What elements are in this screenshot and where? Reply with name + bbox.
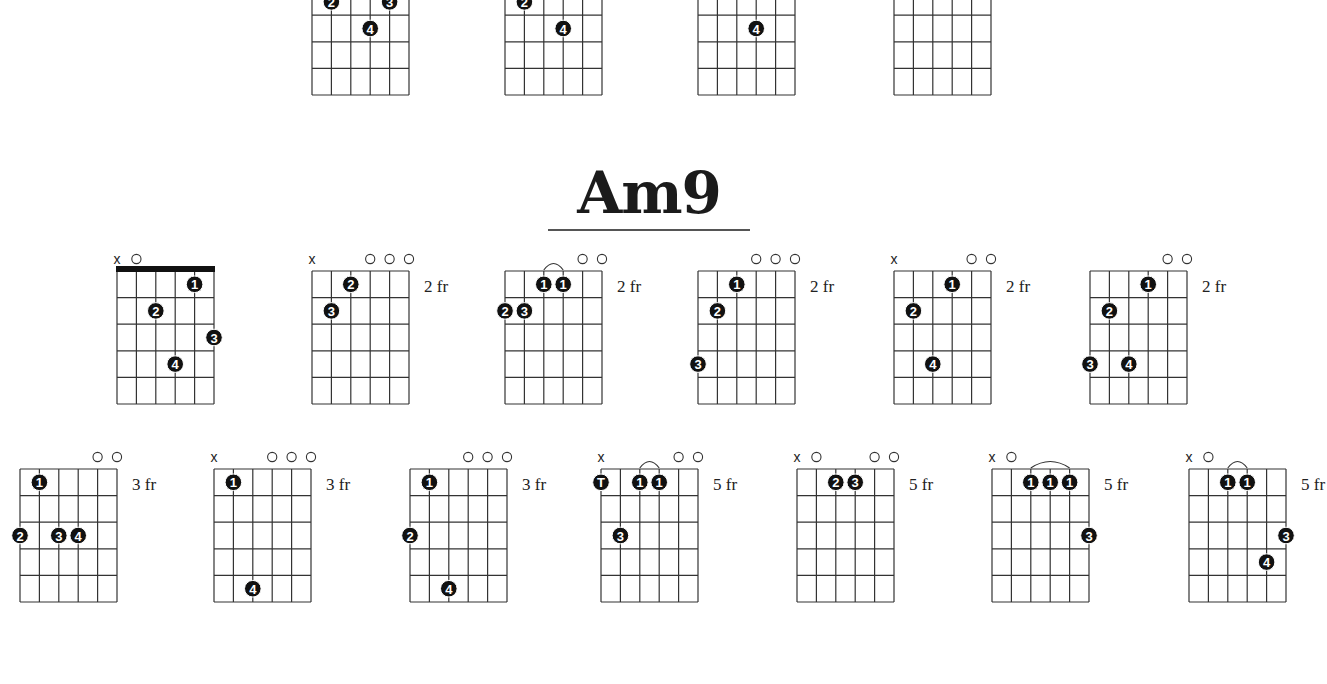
chord-diagram-c7: 1234 <box>0 439 137 612</box>
open-string-icon <box>112 452 121 461</box>
muted-string-icon: x <box>114 251 121 267</box>
svg-text:3: 3 <box>328 304 335 319</box>
finger-dot: 2 <box>343 276 360 293</box>
finger-dot: 3 <box>206 329 223 346</box>
chord-diagram-c8: x14 <box>194 439 331 612</box>
svg-text:1: 1 <box>1047 475 1054 490</box>
chord-diagram-c13: x1134 <box>1169 439 1306 612</box>
svg-text:3: 3 <box>521 304 528 319</box>
svg-text:4: 4 <box>1263 555 1271 570</box>
svg-text:4: 4 <box>367 22 375 37</box>
svg-text:1: 1 <box>36 475 43 490</box>
finger-dot: 2 <box>497 303 514 320</box>
muted-string-icon: x <box>891 251 898 267</box>
finger-dot: 4 <box>555 20 572 37</box>
open-string-icon <box>771 254 780 263</box>
chord-diagram-partial: 24 <box>485 0 622 105</box>
nut-bar <box>116 266 215 272</box>
svg-text:3: 3 <box>1282 529 1289 544</box>
chord-diagram-c4: 123 <box>678 241 815 414</box>
finger-dot: 1 <box>1061 474 1078 491</box>
finger-dot: 4 <box>167 356 184 373</box>
chord-diagram-c3: 1123 <box>485 241 622 414</box>
finger-dot: 4 <box>441 580 458 597</box>
svg-text:4: 4 <box>75 529 83 544</box>
svg-text:2: 2 <box>501 304 508 319</box>
svg-text:4: 4 <box>929 357 937 372</box>
barre-arc <box>640 462 659 469</box>
barre-arc <box>544 264 563 271</box>
svg-text:3: 3 <box>1086 357 1093 372</box>
fret-position-label: 3 fr <box>326 475 350 495</box>
open-string-icon <box>404 254 413 263</box>
finger-dot: 1 <box>1042 474 1059 491</box>
svg-text:1: 1 <box>191 277 198 292</box>
muted-string-icon: x <box>794 449 801 465</box>
svg-text:4: 4 <box>172 357 180 372</box>
fret-position-label: 2 fr <box>424 277 448 297</box>
finger-dot: 4 <box>245 580 262 597</box>
finger-dot: 3 <box>1081 527 1098 544</box>
muted-string-icon: x <box>1186 449 1193 465</box>
open-string-icon <box>889 452 898 461</box>
open-string-icon <box>483 452 492 461</box>
finger-dot: 4 <box>1121 356 1138 373</box>
finger-dot: 2 <box>12 527 29 544</box>
fret-position-label: 2 fr <box>810 277 834 297</box>
open-string-icon <box>1182 254 1191 263</box>
finger-dot: 1 <box>1140 276 1157 293</box>
finger-dot: 4 <box>362 20 379 37</box>
finger-dot: 2 <box>905 303 922 320</box>
finger-dot: 1 <box>944 276 961 293</box>
open-string-icon <box>287 452 296 461</box>
finger-dot: T <box>593 474 610 491</box>
finger-dot: 3 <box>381 0 398 10</box>
barre-arc <box>1228 462 1247 469</box>
svg-text:3: 3 <box>55 529 62 544</box>
fret-position-label: 5 fr <box>1104 475 1128 495</box>
finger-dot: 4 <box>748 20 765 37</box>
fret-position-label: 2 fr <box>617 277 641 297</box>
chord-diagram-c2: x23 <box>292 241 429 414</box>
open-string-icon <box>1163 254 1172 263</box>
svg-text:1: 1 <box>540 277 547 292</box>
svg-text:1: 1 <box>426 475 433 490</box>
chord-diagram-c9: 124 <box>390 439 527 612</box>
svg-text:1: 1 <box>230 475 237 490</box>
svg-text:2: 2 <box>714 304 721 319</box>
chord-diagram-partial: 234 <box>292 0 429 105</box>
finger-dot: 2 <box>323 0 340 10</box>
open-string-icon <box>132 254 141 263</box>
chord-diagram-c6: 1234 <box>1070 241 1207 414</box>
svg-text:4: 4 <box>560 22 568 37</box>
svg-text:1: 1 <box>656 475 663 490</box>
finger-dot: 1 <box>225 474 242 491</box>
open-string-icon <box>693 452 702 461</box>
open-string-icon <box>752 254 761 263</box>
open-string-icon <box>967 254 976 263</box>
svg-text:1: 1 <box>636 475 643 490</box>
chord-diagram-c5: x124 <box>874 241 1011 414</box>
svg-text:2: 2 <box>328 0 335 10</box>
svg-text:3: 3 <box>694 357 701 372</box>
fret-position-label: 3 fr <box>522 475 546 495</box>
finger-dot: 3 <box>690 356 707 373</box>
svg-text:1: 1 <box>1145 277 1152 292</box>
finger-dot: 3 <box>323 303 340 320</box>
svg-text:1: 1 <box>949 277 956 292</box>
svg-text:2: 2 <box>152 304 159 319</box>
finger-dot: 1 <box>186 276 203 293</box>
svg-text:2: 2 <box>16 529 23 544</box>
chord-diagram-partial: 2 <box>874 0 1011 105</box>
finger-dot: 2 <box>516 0 533 10</box>
svg-text:T: T <box>597 475 605 490</box>
svg-text:3: 3 <box>386 0 393 10</box>
svg-text:4: 4 <box>753 22 761 37</box>
finger-dot: 3 <box>1278 527 1295 544</box>
fret-position-label: 5 fr <box>713 475 737 495</box>
finger-dot: 3 <box>612 527 629 544</box>
finger-dot: 2 <box>148 303 165 320</box>
chord-diagram-c10: xT113 <box>581 439 718 612</box>
finger-dot: 3 <box>516 303 533 320</box>
fret-position-label: 3 fr <box>132 475 156 495</box>
